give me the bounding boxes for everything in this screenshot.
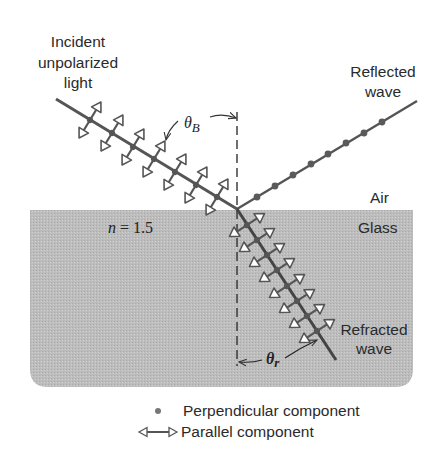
dot-icon bbox=[155, 408, 161, 414]
svg-text:unpolarized: unpolarized bbox=[38, 54, 118, 71]
svg-text:wave: wave bbox=[364, 83, 401, 100]
svg-text:Reflected: Reflected bbox=[350, 63, 415, 80]
brewster-angle-diagram: θB θr Incident unpolarized light Reflect… bbox=[0, 0, 438, 449]
air-label: Air bbox=[370, 189, 389, 206]
diagram-canvas: θB θr Incident unpolarized light Reflect… bbox=[0, 0, 438, 449]
incident-ray bbox=[56, 99, 237, 209]
glass-block bbox=[30, 210, 413, 387]
svg-text:Perpendicular component: Perpendicular component bbox=[183, 402, 360, 419]
legend: Perpendicular component Parallel compone… bbox=[139, 402, 360, 440]
svg-text:Parallel component: Parallel component bbox=[181, 423, 314, 440]
svg-text:light: light bbox=[64, 74, 93, 91]
svg-text:wave: wave bbox=[355, 340, 392, 357]
legend-item-perpendicular: Perpendicular component bbox=[155, 402, 360, 419]
reflected-label: Reflected wave bbox=[350, 63, 415, 100]
glass-label: Glass bbox=[358, 219, 398, 236]
legend-item-parallel: Parallel component bbox=[139, 423, 314, 440]
svg-text:Refracted: Refracted bbox=[340, 321, 407, 338]
double-arrow-icon bbox=[139, 428, 177, 437]
incident-label: Incident unpolarized light bbox=[38, 33, 118, 91]
theta-b-arrow-to-ray bbox=[166, 121, 178, 140]
svg-text:Incident: Incident bbox=[51, 33, 106, 50]
refractive-index-label: n = 1.5 bbox=[108, 219, 153, 236]
incident-parallel-arrows bbox=[74, 99, 232, 218]
theta-b-arrow-to-normal bbox=[210, 115, 236, 118]
theta-b-label: θB bbox=[184, 114, 200, 135]
